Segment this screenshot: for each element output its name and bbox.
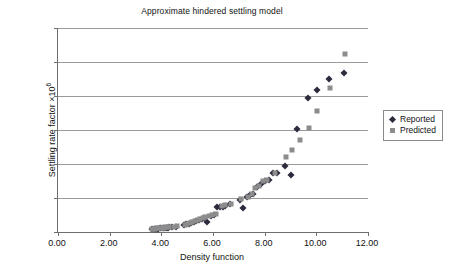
data-point-predicted	[187, 220, 192, 225]
data-point-predicted	[206, 214, 211, 219]
data-point-predicted	[160, 225, 165, 230]
plot-area	[57, 28, 368, 233]
data-point-predicted	[192, 218, 197, 223]
data-point-predicted	[163, 225, 168, 230]
y-axis-title-wrapper: Settling rate factor ×106	[6, 28, 20, 232]
data-point-predicted	[154, 226, 159, 231]
gridline	[58, 198, 368, 199]
data-point-predicted	[256, 184, 261, 189]
data-point-predicted	[167, 225, 172, 230]
data-point-reported	[216, 203, 223, 210]
data-point-predicted	[222, 203, 227, 208]
reported-marker-icon	[388, 117, 396, 122]
data-point-reported	[254, 183, 261, 190]
y-tick-mark	[54, 164, 58, 165]
data-point-reported	[250, 191, 257, 198]
data-point-predicted	[190, 219, 195, 224]
data-point-reported	[156, 225, 163, 232]
chart-title: Approximate hindered settling model	[57, 6, 367, 16]
data-point-predicted	[200, 215, 205, 220]
data-point-predicted	[156, 226, 161, 231]
data-point-predicted	[343, 51, 348, 56]
data-point-predicted	[203, 215, 208, 220]
data-point-reported	[188, 219, 195, 226]
data-point-reported	[169, 224, 176, 231]
data-point-predicted	[265, 177, 270, 182]
data-point-reported	[180, 222, 187, 229]
data-point-predicted	[159, 225, 164, 230]
y-tick-mark	[54, 62, 58, 63]
data-point-predicted	[182, 222, 187, 227]
data-point-reported	[204, 218, 211, 225]
data-point-reported	[293, 125, 300, 132]
data-point-reported	[219, 203, 226, 210]
data-point-predicted	[165, 225, 170, 230]
data-point-predicted	[229, 202, 234, 207]
gridline	[58, 28, 368, 29]
legend-label-predicted: Predicted	[400, 125, 436, 136]
data-point-predicted	[149, 226, 154, 231]
data-point-predicted	[219, 204, 224, 209]
data-point-reported	[273, 169, 280, 176]
data-point-reported	[341, 70, 348, 77]
data-point-reported	[193, 217, 200, 224]
data-point-reported	[270, 169, 277, 176]
data-point-reported	[152, 225, 159, 232]
data-point-reported	[265, 176, 272, 183]
data-point-reported	[161, 224, 168, 231]
data-point-reported	[164, 224, 171, 231]
gridline	[58, 130, 368, 131]
data-point-reported	[258, 181, 265, 188]
y-axis-title-exponent: 6	[45, 83, 52, 87]
legend-label-reported: Reported	[400, 114, 435, 125]
data-point-reported	[210, 211, 217, 218]
data-point-predicted	[290, 148, 295, 153]
x-tick-label: 10.00	[304, 238, 327, 248]
data-point-reported	[159, 225, 166, 232]
x-tick-label: 12.00	[356, 238, 379, 248]
x-tick-mark	[110, 232, 111, 236]
chart-container: Approximate hindered settling model Sett…	[0, 0, 473, 276]
data-point-predicted	[315, 108, 320, 113]
x-tick-mark	[316, 232, 317, 236]
data-point-predicted	[284, 154, 289, 159]
gridline	[58, 96, 368, 97]
data-point-predicted	[252, 185, 257, 190]
data-point-predicted	[175, 224, 180, 229]
data-point-predicted	[249, 192, 254, 197]
data-point-reported	[196, 216, 203, 223]
y-tick-mark	[54, 28, 58, 29]
data-point-reported	[153, 225, 160, 232]
x-tick-mark	[368, 232, 369, 236]
data-point-predicted	[153, 226, 158, 231]
data-point-predicted	[213, 211, 218, 216]
data-point-predicted	[273, 171, 278, 176]
data-point-reported	[166, 224, 173, 231]
data-point-reported	[227, 201, 234, 208]
gridline	[58, 164, 368, 165]
y-tick-mark	[54, 198, 58, 199]
data-point-predicted	[261, 178, 266, 183]
data-point-reported	[172, 223, 179, 230]
x-tick-mark	[58, 232, 59, 236]
x-tick-mark	[265, 232, 266, 236]
data-point-predicted	[195, 217, 200, 222]
data-point-reported	[201, 214, 208, 221]
data-point-reported	[190, 218, 197, 225]
data-point-reported	[240, 204, 247, 211]
x-tick-label: 8.00	[255, 238, 273, 248]
chart-legend: Reported Predicted	[383, 110, 443, 141]
y-tick-mark	[54, 96, 58, 97]
data-point-reported	[158, 225, 165, 232]
x-tick-mark	[161, 232, 162, 236]
x-tick-mark	[213, 232, 214, 236]
predicted-marker-icon	[388, 128, 396, 133]
data-point-predicted	[171, 224, 176, 229]
data-point-predicted	[210, 213, 215, 218]
data-point-predicted	[151, 226, 156, 231]
x-tick-label: 6.00	[203, 238, 221, 248]
x-tick-label: 2.00	[100, 238, 118, 248]
data-point-predicted	[157, 226, 162, 231]
data-point-predicted	[297, 137, 302, 142]
x-tick-label: 0.00	[48, 238, 66, 248]
